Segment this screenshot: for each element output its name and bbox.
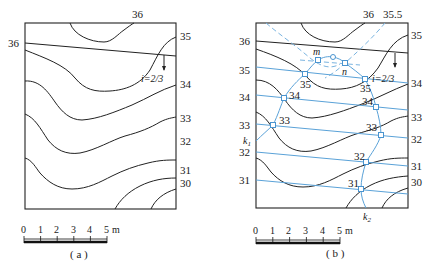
label-33-left: 33 xyxy=(239,119,251,131)
arrow-head-icon xyxy=(162,66,166,71)
scale-unit: m xyxy=(112,224,120,235)
label-31-left: 31 xyxy=(239,174,250,186)
caption-a: ( a ) xyxy=(70,248,88,261)
contour-36 xyxy=(70,23,134,42)
figure-svg: 36 36 35 34 33 32 31 30 i=2/3 0 1 2 3 4 … xyxy=(0,0,433,271)
label-p33-left: 33 xyxy=(279,114,291,126)
design-line-31 xyxy=(256,180,408,194)
contour-36 xyxy=(301,23,365,42)
label-35-left: 35 xyxy=(239,64,251,76)
label-p32: 32 xyxy=(354,150,365,162)
contour-32 xyxy=(256,158,408,187)
scale-tick-5: 5 xyxy=(337,225,342,236)
point-31 xyxy=(359,187,364,192)
scale-bar-a: 0 1 2 3 4 5 m xyxy=(21,224,120,243)
point-35-right xyxy=(363,77,368,82)
label-36-left: 36 xyxy=(239,35,251,47)
label-m: m xyxy=(313,46,320,57)
label-30-right: 30 xyxy=(411,176,423,188)
contour-30 xyxy=(151,189,176,209)
label-35-5-top: 35.5 xyxy=(383,8,403,20)
label-p34-left: 34 xyxy=(289,89,301,101)
label-k2: k2 xyxy=(363,211,371,224)
label-35-right: 35 xyxy=(411,29,423,41)
label-p33-right: 33 xyxy=(366,121,378,133)
contour-figure: 36 36 35 34 33 32 31 30 i=2/3 0 1 2 3 4 … xyxy=(0,0,433,271)
scale-tick-0: 0 xyxy=(21,224,26,235)
label-31-right: 31 xyxy=(180,164,191,176)
point-m xyxy=(316,58,321,63)
contour-30 xyxy=(382,188,408,208)
label-p35-right: 35 xyxy=(360,82,372,94)
slope-label: i=2/3 xyxy=(141,73,163,84)
dashed-horizontal xyxy=(300,60,360,65)
label-36-top: 36 xyxy=(363,8,375,20)
design-line-33 xyxy=(256,124,408,138)
point-35-left xyxy=(303,72,308,77)
scale-bar-b: 0 1 2 3 4 5 m xyxy=(253,225,353,244)
design-slope-line xyxy=(256,41,408,53)
label-32-right: 32 xyxy=(411,133,422,145)
label-33-right: 33 xyxy=(180,112,192,124)
caption-b: ( b ) xyxy=(326,247,345,260)
scale-tick-3: 3 xyxy=(303,225,308,236)
label-31-right: 31 xyxy=(411,160,422,172)
point-n xyxy=(343,61,348,66)
label-p35-left: 35 xyxy=(300,78,312,90)
contour-33 xyxy=(25,114,176,153)
point-33-right xyxy=(379,133,384,138)
label-34-right: 34 xyxy=(180,78,192,90)
label-35-right: 35 xyxy=(180,30,192,42)
scale-tick-1: 1 xyxy=(38,224,43,235)
label-p31: 31 xyxy=(348,177,359,189)
scale-tick-2: 2 xyxy=(54,224,59,235)
label-36-left: 36 xyxy=(8,37,20,49)
scale-tick-4: 4 xyxy=(320,225,325,236)
arrow-head-icon xyxy=(393,63,397,68)
label-34-right: 34 xyxy=(411,77,423,89)
contour-32 xyxy=(25,158,176,189)
label-33-right: 33 xyxy=(411,111,423,123)
design-slope-line xyxy=(25,43,176,56)
label-30-right: 30 xyxy=(180,177,192,189)
contour-34 xyxy=(25,81,176,120)
contour-31 xyxy=(115,178,176,209)
label-32-right: 32 xyxy=(180,135,191,147)
scale-tick-0: 0 xyxy=(253,225,258,236)
scale-unit: m xyxy=(345,225,353,236)
scale-tick-4: 4 xyxy=(87,224,92,235)
label-p34-right: 34 xyxy=(362,95,374,107)
panel-a: 36 36 35 34 33 32 31 30 i=2/3 0 1 2 3 4 … xyxy=(8,8,192,261)
design-line-32 xyxy=(256,152,408,166)
scale-tick-2: 2 xyxy=(286,225,291,236)
scale-tick-5: 5 xyxy=(104,224,109,235)
panel-b: m n 35 35 34 34 33 33 32 31 36 35.5 35 3… xyxy=(239,8,423,260)
scale-tick-1: 1 xyxy=(270,225,275,236)
label-n: n xyxy=(342,66,347,77)
point-33-left xyxy=(271,123,276,128)
point-top xyxy=(331,55,336,60)
label-34-left: 34 xyxy=(239,91,251,103)
point-34-right xyxy=(374,105,379,110)
label-36-top: 36 xyxy=(132,8,144,20)
scale-tick-3: 3 xyxy=(71,224,76,235)
slope-label: i=2/3 xyxy=(372,73,394,84)
point-34-left xyxy=(282,96,287,101)
design-line-34 xyxy=(256,95,408,110)
